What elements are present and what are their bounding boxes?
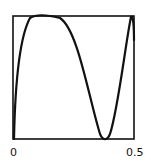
plot-frame bbox=[13, 16, 134, 139]
data-curve bbox=[14, 15, 134, 139]
x-tick-0-5: 0.5 bbox=[126, 147, 144, 158]
plot-area bbox=[0, 0, 151, 166]
x-tick-0: 0 bbox=[10, 147, 17, 158]
